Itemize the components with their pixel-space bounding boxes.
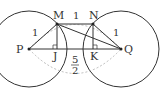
point-q <box>120 48 123 51</box>
length-pq-denominator: 2 <box>72 65 78 76</box>
label-k: K <box>90 50 99 63</box>
point-p <box>28 48 31 51</box>
length-mn: 1 <box>73 10 79 21</box>
right-angle-k <box>93 45 97 49</box>
label-p: P <box>16 43 24 56</box>
length-pq-numerator: 5 <box>72 54 78 65</box>
length-nq: 1 <box>113 27 119 38</box>
label-n: N <box>89 9 99 22</box>
label-m: M <box>53 9 64 22</box>
point-m <box>56 23 59 26</box>
geometry-diagram: P Q M N J K 1 1 1 5 2 <box>0 0 167 97</box>
label-j: J <box>52 50 57 63</box>
right-angle-j <box>53 45 57 49</box>
point-n <box>92 23 95 26</box>
length-pm: 1 <box>32 27 38 38</box>
label-q: Q <box>124 43 133 56</box>
